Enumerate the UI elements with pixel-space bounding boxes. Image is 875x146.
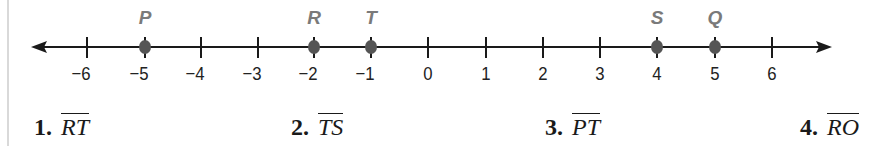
point-label-t: T <box>356 7 386 29</box>
tick-label: 4 <box>639 63 674 85</box>
segment-label: PT <box>572 113 600 138</box>
tick-label: −1 <box>347 63 382 85</box>
tick-label: −5 <box>121 63 156 85</box>
tick-label: −4 <box>177 63 212 85</box>
problem-3: 3.PT <box>545 113 600 141</box>
point-dot-t <box>365 40 377 54</box>
segment-label: RT <box>61 113 89 138</box>
point-label-r: R <box>299 7 329 29</box>
point-label-p: P <box>130 7 160 29</box>
tick-label: 6 <box>754 63 789 85</box>
problem-number: 4. <box>800 114 818 140</box>
point-dot-r <box>308 40 320 54</box>
point-dot-s <box>651 40 663 54</box>
tick-label: −2 <box>290 63 325 85</box>
tick-label: 2 <box>525 63 560 85</box>
problem-2: 2.TS <box>291 113 343 141</box>
segment-label: TS <box>318 113 343 138</box>
point-label-s: S <box>642 7 672 29</box>
problem-1: 1.RT <box>34 113 89 141</box>
point-label-q: Q <box>700 7 730 29</box>
problem-number: 3. <box>545 114 563 140</box>
tick-label: 1 <box>468 63 503 85</box>
tick-label: 5 <box>697 63 732 85</box>
problem-number: 2. <box>291 114 309 140</box>
point-dot-p <box>139 40 151 54</box>
segment-label: RO <box>827 113 859 138</box>
tick-label: −6 <box>63 63 98 85</box>
tick-label: 3 <box>582 63 617 85</box>
tick-label: −3 <box>234 63 269 85</box>
tick-label: 0 <box>410 63 445 85</box>
problem-4: 4.RO <box>800 113 859 141</box>
point-dot-q <box>709 40 721 54</box>
problem-number: 1. <box>34 114 52 140</box>
